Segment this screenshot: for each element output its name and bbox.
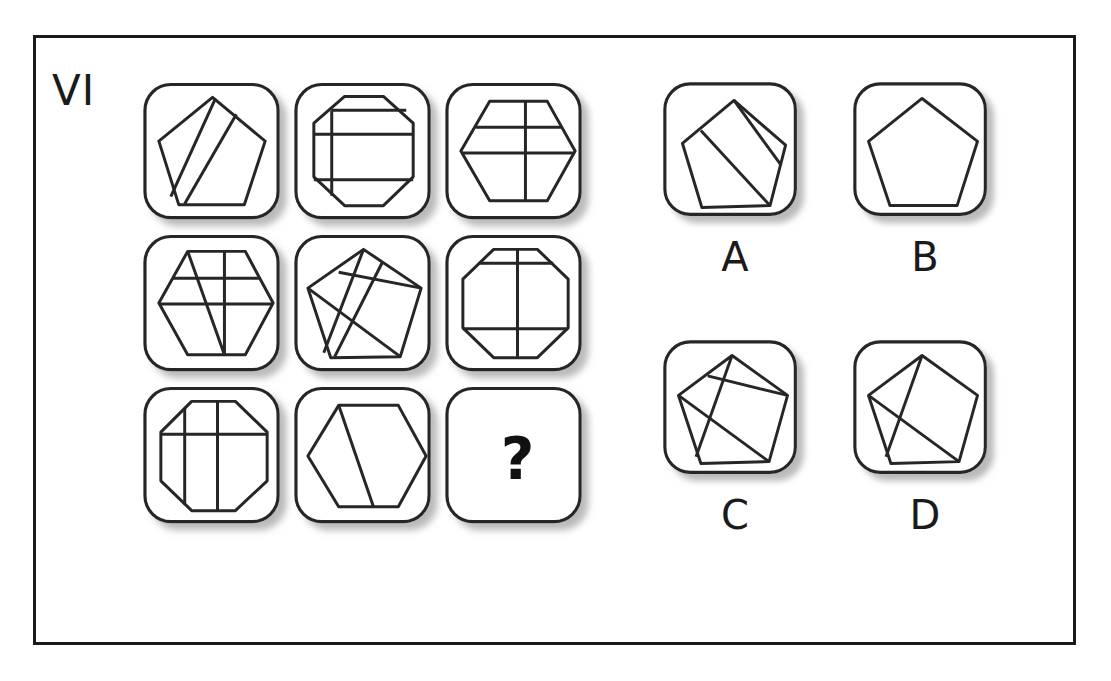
option-b-tile[interactable] (850, 79, 998, 227)
matrix-cell-1[interactable] (140, 79, 291, 231)
option-d[interactable]: D (850, 337, 1000, 547)
option-d-label: D (850, 495, 1000, 535)
answer-options: A B (660, 79, 1000, 554)
matrix-cell-9-question[interactable]: ? (442, 383, 593, 535)
option-c[interactable]: C (660, 337, 810, 547)
option-a[interactable]: A (660, 79, 810, 289)
option-d-tile[interactable] (850, 337, 998, 485)
matrix-cell-8[interactable] (291, 383, 442, 535)
option-a-label: A (660, 237, 810, 277)
matrix-cell-5[interactable] (291, 231, 442, 383)
option-a-tile[interactable] (660, 79, 808, 227)
option-c-tile[interactable] (660, 337, 808, 485)
question-mark: ? (442, 383, 593, 535)
matrix-cell-6[interactable] (442, 231, 593, 383)
option-c-label: C (660, 495, 810, 535)
matrix-cell-2[interactable] (291, 79, 442, 231)
option-b[interactable]: B (850, 79, 1000, 289)
matrix-cell-4[interactable] (140, 231, 291, 383)
matrix-grid: ? (140, 79, 593, 535)
option-b-label: B (850, 237, 1000, 277)
matrix-cell-7[interactable] (140, 383, 291, 535)
matrix-cell-3[interactable] (442, 79, 593, 231)
puzzle-label: VI (52, 70, 95, 112)
